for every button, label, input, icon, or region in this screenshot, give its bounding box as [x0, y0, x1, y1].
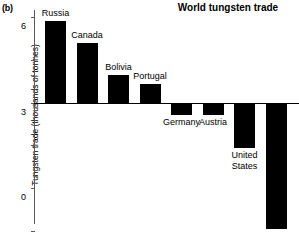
y-tick-label: 3 — [21, 107, 26, 117]
y-tick-label: 0 — [21, 192, 26, 202]
y-tick-mark: 3 — [31, 60, 35, 61]
zero-baseline — [34, 103, 299, 104]
chart-figure: (b) World tungsten trade Tungsten trade … — [0, 0, 299, 232]
bar-category-label: Canada — [60, 30, 114, 41]
bar — [203, 103, 224, 116]
bar-category-label: China — [249, 231, 299, 232]
panel-letter: (b) — [2, 3, 13, 14]
y-tick-mark: –6 — [31, 188, 35, 189]
bar-category-label: United States — [218, 150, 272, 171]
bar — [171, 103, 192, 116]
y-tick-label: 6 — [21, 21, 26, 31]
y-axis-spine — [34, 10, 35, 224]
y-tick-mark: –9 — [31, 231, 35, 232]
bar-category-label: Portugal — [123, 71, 177, 82]
plot-area: 630–3–6–9 RussiaCanadaBoliviaPortugalGer… — [34, 8, 299, 228]
bar — [140, 84, 161, 103]
bar-category-label: Russia — [29, 8, 83, 19]
bar-category-label: Austria — [186, 117, 240, 128]
y-tick-mark: –3 — [31, 145, 35, 146]
